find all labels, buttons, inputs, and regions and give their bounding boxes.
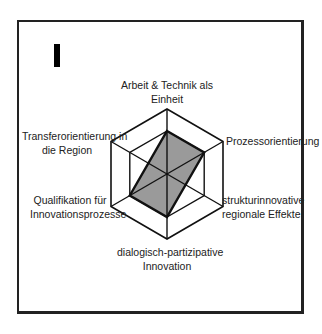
label-line: Innovation <box>117 259 217 273</box>
label-line: Prozessorientierung <box>226 134 319 148</box>
label-line: Einheit <box>117 92 217 106</box>
label-line: Qualifikation für <box>30 193 110 207</box>
label-line: dialogisch-partizipative <box>117 245 217 259</box>
axis-label-arbeit-technik: Arbeit & Technik als Einheit <box>117 78 217 106</box>
axis-label-strukturinnovative: strukturinnovative regionale Effekte <box>222 193 292 221</box>
label-line: Innovationsprozesse <box>30 207 110 221</box>
label-line: Arbeit & Technik als <box>117 78 217 92</box>
radar-chart <box>0 0 322 334</box>
label-line: regionale Effekte <box>222 207 292 221</box>
axis-spokes <box>111 109 223 239</box>
axis-label-dialogisch: dialogisch-partizipative Innovation <box>117 245 217 273</box>
axis-label-qualifikation: Qualifikation für Innovationsprozesse <box>30 193 110 221</box>
label-line: die Region <box>22 143 112 157</box>
label-line: Transferorientierung in <box>22 129 112 143</box>
label-line: strukturinnovative <box>222 193 292 207</box>
axis-label-transferorientierung: Transferorientierung in die Region <box>22 129 112 157</box>
axis-label-prozessorientierung: Prozessorientierung <box>226 134 319 148</box>
